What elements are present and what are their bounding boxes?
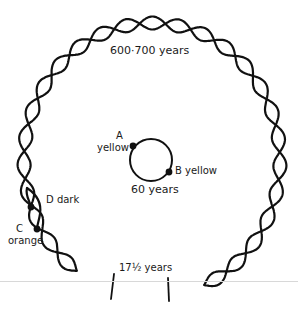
point-c-dot: [34, 226, 41, 233]
point-d-label: D dark: [46, 195, 79, 205]
point-a-dot: [130, 143, 137, 150]
point-b-label: B yellow: [175, 166, 217, 176]
point-b-dot: [166, 169, 173, 176]
diagram-canvas: 600·700 years A yellow B yellow 60 years…: [0, 0, 298, 312]
segment-duration-label: 17½ years: [119, 263, 172, 273]
point-a-letter: A: [116, 131, 123, 141]
segment-tick-start: [111, 274, 114, 299]
point-c-color-label: orange: [8, 236, 43, 246]
point-d-dot: [28, 204, 35, 211]
horizontal-rule: [0, 281, 298, 282]
point-a-color-label: yellow: [97, 143, 129, 153]
segment-tick-marks: [111, 274, 169, 301]
inner-cycle-label: 60 years: [131, 184, 179, 195]
outer-cycle-label: 600·700 years: [110, 45, 189, 56]
point-c-letter: C: [16, 224, 23, 234]
